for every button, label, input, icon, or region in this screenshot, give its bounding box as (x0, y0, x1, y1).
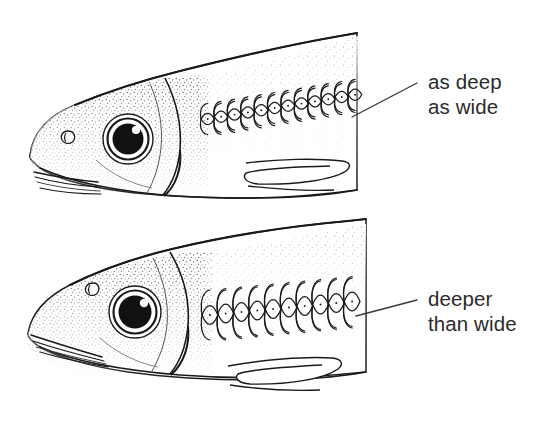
annotation-lower-line2: than wide (428, 312, 517, 335)
figure-canvas: as deep as wide deeper than wide (0, 0, 550, 434)
fish-scale-comparison-figure: as deep as wide deeper than wide (0, 0, 550, 434)
lower-fish-illustration (0, 0, 550, 434)
annotation-upper-line1: as deep (428, 70, 502, 93)
annotation-upper-line2: as wide (428, 95, 498, 118)
lower-fish-eye (109, 286, 161, 338)
annotation-lower-line1: deeper (428, 287, 493, 310)
lower-fish-nostril-icon (85, 283, 98, 295)
